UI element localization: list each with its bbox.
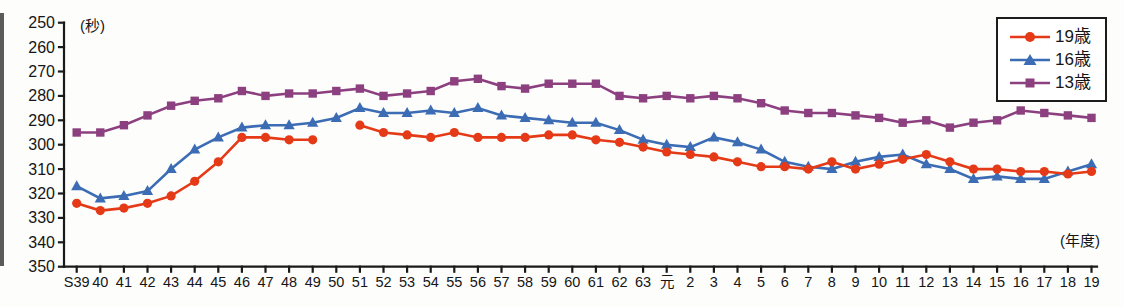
- y-tick-label: 250: [28, 14, 55, 31]
- x-tick-label: 13: [942, 274, 958, 290]
- x-tick-label: 54: [423, 274, 439, 290]
- x-tick-label: 52: [375, 274, 391, 290]
- x-tick-label: 7: [804, 274, 812, 290]
- data-point-age-13: [73, 128, 81, 136]
- data-point-age-13: [1087, 114, 1095, 122]
- y-axis-unit-label: (秒): [80, 14, 105, 35]
- data-point-age-19: [72, 199, 81, 208]
- x-tick-label: 42: [139, 274, 155, 290]
- x-tick-label: 47: [257, 274, 273, 290]
- legend-label: 19歳: [1055, 28, 1091, 45]
- data-point-age-13: [214, 94, 222, 102]
- data-point-age-13: [450, 77, 458, 85]
- x-tick-label: 49: [305, 274, 321, 290]
- data-point-age-19: [473, 133, 482, 142]
- y-tick-label: 260: [28, 39, 55, 56]
- x-tick-label: 10: [871, 274, 887, 290]
- data-point-age-13: [1017, 106, 1025, 114]
- y-tick-label: 280: [28, 87, 55, 104]
- data-point-age-13: [379, 92, 387, 100]
- x-tick-label: 14: [965, 274, 981, 290]
- data-point-age-19: [1087, 167, 1096, 176]
- data-point-age-13: [96, 128, 104, 136]
- data-point-age-19: [851, 165, 860, 174]
- data-point-age-19: [237, 133, 246, 142]
- x-tick-label: 63: [635, 274, 651, 290]
- data-point-age-19: [686, 150, 695, 159]
- y-tick-label: 320: [28, 185, 55, 202]
- x-tick-label: 18: [1060, 274, 1076, 290]
- x-tick-label: 15: [989, 274, 1005, 290]
- data-point-age-19: [780, 162, 789, 171]
- data-point-age-13: [592, 80, 600, 88]
- legend-item-age-19: 19歳: [1007, 28, 1105, 45]
- data-point-age-13: [545, 80, 553, 88]
- x-tick-label: 53: [399, 274, 415, 290]
- data-point-age-19: [119, 204, 128, 213]
- data-point-age-13: [875, 114, 883, 122]
- x-tick-label: 11: [895, 274, 910, 290]
- data-point-age-19: [969, 165, 978, 174]
- data-point-age-13: [568, 80, 576, 88]
- data-point-age-13: [285, 89, 293, 97]
- legend-item-age-16: 16歳: [1007, 51, 1105, 68]
- y-tick-label: 330: [28, 209, 55, 226]
- legend: 19歳16歳13歳: [996, 17, 1107, 102]
- legend-marker-square-icon: [1007, 75, 1053, 91]
- data-point-age-19: [1040, 167, 1049, 176]
- data-point-age-19: [190, 177, 199, 186]
- x-tick-label: 4: [733, 274, 741, 290]
- data-point-age-13: [1064, 111, 1072, 119]
- x-tick-label: 57: [493, 274, 509, 290]
- x-tick-label: 5: [757, 274, 765, 290]
- x-tick-label: 59: [541, 274, 557, 290]
- data-point-age-13: [1040, 109, 1048, 117]
- data-point-age-16: [1086, 158, 1097, 168]
- data-point-age-19: [544, 130, 553, 139]
- x-tick-label: 51: [352, 274, 368, 290]
- y-tick-label: 310: [28, 161, 55, 178]
- line-chart: 250260270280290300310320330340350S394041…: [0, 0, 1124, 307]
- data-point-age-13: [969, 119, 977, 127]
- data-point-age-13: [427, 87, 435, 95]
- data-point-age-19: [733, 157, 742, 166]
- x-tick-label: 9: [851, 274, 859, 290]
- series-age-16: [71, 102, 1097, 202]
- x-tick-label: 19: [1083, 274, 1099, 290]
- data-point-age-19: [214, 157, 223, 166]
- data-point-age-13: [191, 97, 199, 105]
- data-point-age-13: [851, 111, 859, 119]
- x-axis-unit-label: (年度): [1036, 229, 1100, 250]
- data-point-age-19: [261, 133, 270, 142]
- data-point-age-13: [733, 94, 741, 102]
- x-tick-label: 62: [611, 274, 627, 290]
- x-tick-label: 3: [710, 274, 718, 290]
- legend-label: 16歳: [1055, 51, 1091, 68]
- data-point-age-13: [804, 109, 812, 117]
- y-tick-label: 350: [28, 258, 55, 275]
- x-tick-label: 17: [1036, 274, 1052, 290]
- data-point-age-13: [663, 92, 671, 100]
- x-tick-label: 56: [470, 274, 486, 290]
- data-point-age-19: [1016, 167, 1025, 176]
- data-point-age-16: [472, 102, 483, 112]
- x-tick-label: 46: [234, 274, 250, 290]
- data-point-age-13: [497, 82, 505, 90]
- data-point-age-13: [639, 94, 647, 102]
- data-point-age-16: [708, 131, 719, 141]
- legend-item-age-13: 13歳: [1007, 74, 1105, 91]
- data-point-age-13: [922, 116, 930, 124]
- legend-marker-circle-icon: [1007, 29, 1053, 45]
- data-point-age-19: [639, 143, 648, 152]
- data-point-age-19: [757, 162, 766, 171]
- data-point-age-19: [709, 152, 718, 161]
- data-point-age-13: [332, 87, 340, 95]
- data-point-age-19: [167, 191, 176, 200]
- data-point-age-13: [757, 99, 765, 107]
- data-point-age-19: [662, 147, 671, 156]
- data-point-age-16: [425, 105, 436, 115]
- x-tick-label: 元: [660, 274, 674, 290]
- y-tick-label: 340: [28, 234, 55, 251]
- data-point-age-16: [354, 102, 365, 112]
- data-point-age-13: [309, 89, 317, 97]
